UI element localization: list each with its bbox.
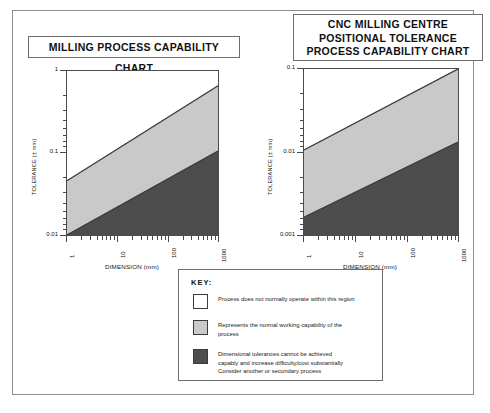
xtick-label-left-3: 1000 [221, 249, 227, 262]
ytick-minor-left [63, 135, 67, 136]
xtick-minor-right [386, 236, 387, 240]
yaxis-label-left: TOLERANCE (± mm) [31, 138, 37, 195]
xtick-minor-left [203, 236, 204, 240]
xtick-major-right-2 [407, 236, 408, 242]
key-item-light-grey: Represents the normal working capability… [193, 320, 342, 338]
xtick-label-right-3: 1000 [461, 249, 467, 262]
ytick-minor-right [300, 141, 304, 142]
xtick-minor-right [404, 236, 405, 240]
ytick-minor-right [300, 229, 304, 230]
xtick-minor-right [442, 236, 443, 240]
xtick-minor-left [152, 236, 153, 240]
ytick-minor-right [300, 218, 304, 219]
xtick-minor-left [106, 236, 107, 240]
key-text-light-grey: Represents the normal working capability… [218, 320, 342, 338]
ytick-minor-right [300, 211, 304, 212]
key-swatch-dark-grey-icon [193, 349, 208, 364]
ytick-minor-left [63, 146, 67, 147]
xtick-minor-left [211, 236, 212, 240]
xtick-minor-left [114, 236, 115, 240]
ytick-minor-right [300, 128, 304, 129]
ytick-minor-left [63, 218, 67, 219]
page-root: MILLING PROCESS CAPABILITY CHART CNC MIL… [0, 0, 490, 413]
xtick-minor-right [447, 236, 448, 240]
xtick-label-left-1: 10 [120, 251, 126, 258]
ytick-label-left-1: 0.1 [40, 148, 58, 154]
xtick-minor-left [157, 236, 158, 240]
xtick-minor-right [451, 236, 452, 240]
xtick-major-right-0 [303, 236, 304, 242]
xtick-minor-right [400, 236, 401, 240]
xtick-minor-right [352, 236, 353, 240]
ytick-minor-left [63, 120, 67, 121]
chart-milling-process-capability: 1 0.1 0.01 TOLERANCE (± mm) [0, 0, 245, 270]
ytick-major-right-1 [297, 152, 303, 153]
xtick-label-right-2: 100 [410, 248, 416, 258]
ytick-minor-left [63, 141, 67, 142]
ytick-minor-right [300, 192, 304, 193]
xtick-minor-left [141, 236, 142, 240]
ytick-label-left-2: 0.01 [36, 231, 58, 237]
xtick-minor-right [455, 236, 456, 240]
ytick-minor-left [63, 192, 67, 193]
xtick-minor-left [110, 236, 111, 240]
xtick-minor-right [391, 236, 392, 240]
ytick-major-left-1 [60, 152, 66, 153]
xtick-label-left-2: 100 [171, 248, 177, 258]
xtick-label-left-0: 1 [69, 255, 75, 258]
ytick-minor-left [63, 211, 67, 212]
xtick-minor-right [431, 236, 432, 240]
xtick-minor-left [198, 236, 199, 240]
ytick-label-right-0: 0.1 [275, 64, 295, 70]
xtick-minor-left [147, 236, 148, 240]
ytick-major-right-0 [297, 68, 303, 69]
xtick-minor-left [215, 236, 216, 240]
xtick-minor-left [183, 236, 184, 240]
xtick-minor-left [207, 236, 208, 240]
xtick-minor-left [132, 236, 133, 240]
ytick-minor-right [300, 224, 304, 225]
ytick-minor-left [63, 203, 67, 204]
ytick-label-right-2: 0.001 [269, 231, 295, 237]
ytick-minor-right [300, 109, 304, 110]
xtick-major-left-3 [218, 236, 219, 242]
xtick-minor-left [191, 236, 192, 240]
xtick-minor-right [348, 236, 349, 240]
xtick-minor-right [379, 236, 380, 240]
key-text-white: Process does not normally operate within… [218, 294, 355, 304]
plot-bands-left [67, 71, 218, 235]
xtick-minor-right [422, 236, 423, 240]
xtick-minor-right [334, 236, 335, 240]
ytick-minor-right [300, 93, 304, 94]
xtick-major-left-0 [66, 236, 67, 242]
key-title: KEY: [191, 278, 212, 287]
key-legend-box: KEY: Process does not normally operate w… [178, 269, 383, 381]
plot-area-left [66, 70, 219, 236]
xtick-minor-right [318, 236, 319, 240]
xtick-major-right-3 [458, 236, 459, 242]
ytick-label-left-0: 1 [40, 66, 58, 72]
plot-bands-right [304, 69, 458, 235]
xtick-minor-right [396, 236, 397, 240]
ytick-minor-left [63, 95, 67, 96]
xtick-minor-left [97, 236, 98, 240]
chart-cnc-positional-tolerance: 0.1 0.01 0.001 TOLERANCE (± mm) [245, 0, 490, 270]
key-text-dark-grey: Dimensional tolerances cannot be achieve… [218, 349, 343, 376]
key-swatch-white-icon [193, 294, 208, 309]
xtick-minor-right [344, 236, 345, 240]
xtick-minor-left [165, 236, 166, 240]
xtick-minor-left [90, 236, 91, 240]
xtick-minor-left [102, 236, 103, 240]
key-swatch-light-grey-icon [193, 320, 208, 335]
ytick-major-left-0 [60, 70, 66, 71]
xtick-minor-right [370, 236, 371, 240]
ytick-minor-right [300, 146, 304, 147]
ytick-label-right-1: 0.01 [273, 148, 295, 154]
xtick-minor-right [327, 236, 328, 240]
xtick-label-right-0: 1 [306, 255, 312, 258]
ytick-minor-left [63, 128, 67, 129]
ytick-minor-right [300, 135, 304, 136]
xtick-minor-right [437, 236, 438, 240]
xaxis-label-left: DIMENSION (mm) [105, 263, 159, 270]
xtick-minor-left [161, 236, 162, 240]
